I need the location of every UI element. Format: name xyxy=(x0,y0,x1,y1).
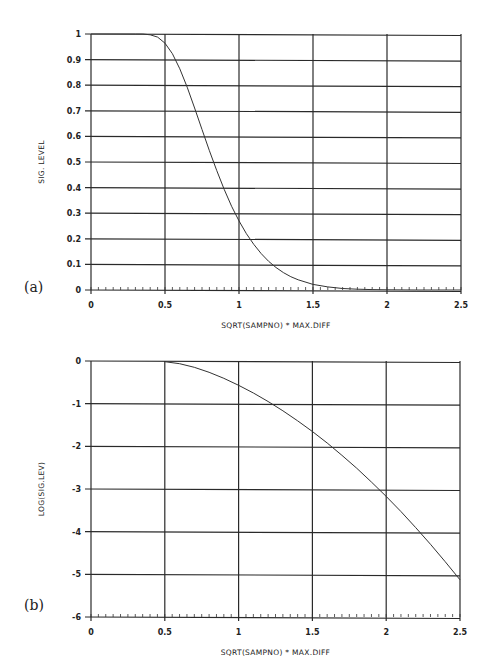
y-gridline xyxy=(85,239,461,241)
figure: 00.10.20.30.40.50.60.70.80.9100.511.522.… xyxy=(0,0,490,670)
y-tick-label: -4 xyxy=(72,528,81,537)
y-gridline xyxy=(85,574,460,576)
y-tick-label: -1 xyxy=(72,400,81,409)
x-tick-label: 0 xyxy=(88,628,94,637)
y-tick-label: 0.2 xyxy=(67,235,81,244)
y-gridline xyxy=(85,213,461,215)
y-tick-label: 0.5 xyxy=(67,158,82,167)
y-gridline xyxy=(85,617,460,619)
y-tick-label: -5 xyxy=(72,570,81,579)
y-axis-label: LOG(SIG.LEV) xyxy=(37,462,46,516)
y-tick-label: 0.9 xyxy=(67,56,82,65)
y-tick-label: 0.7 xyxy=(67,107,81,116)
y-tick-label: 1 xyxy=(75,30,81,39)
chart-a: 00.10.20.30.40.50.60.70.80.9100.511.522.… xyxy=(24,30,469,330)
y-gridline xyxy=(85,489,460,491)
y-gridline xyxy=(85,162,461,164)
x-tick-label: 2 xyxy=(384,301,390,310)
x-tick-label: 1.5 xyxy=(306,301,321,310)
y-axis-label: SIG. LEVEL xyxy=(37,140,46,184)
x-axis-label: SQRT(SAMPNO) * MAX.DIFF xyxy=(221,648,330,657)
y-gridline xyxy=(85,136,461,138)
x-tick-label: 2.5 xyxy=(453,628,468,637)
y-tick-label: -2 xyxy=(72,442,81,451)
y-tick-label: 0.1 xyxy=(67,260,82,269)
x-tick-label: 1 xyxy=(236,628,242,637)
y-tick-label: 0.8 xyxy=(67,81,82,90)
x-tick-label: 2.5 xyxy=(454,301,469,310)
y-gridline xyxy=(85,532,460,534)
x-tick-label: 1 xyxy=(236,301,242,310)
y-tick-label: 0 xyxy=(75,357,81,366)
y-gridline xyxy=(85,446,460,448)
y-tick-label: -6 xyxy=(72,613,81,622)
y-gridline xyxy=(85,111,461,113)
y-gridline xyxy=(85,361,460,363)
x-tick-label: 0 xyxy=(88,301,94,310)
y-tick-label: 0.3 xyxy=(67,209,81,218)
y-gridline xyxy=(85,60,461,62)
y-tick-label: 0.6 xyxy=(67,132,82,141)
x-tick-label: 2 xyxy=(383,628,389,637)
x-tick-label: 0.5 xyxy=(158,628,173,637)
chart-b: -6-5-4-3-2-1000.511.522.5SQRT(SAMPNO) * … xyxy=(24,357,468,657)
x-tick-label: 0.5 xyxy=(158,301,173,310)
panel-label: (a) xyxy=(24,279,43,295)
y-tick-label: -3 xyxy=(72,485,81,494)
y-gridline xyxy=(85,188,461,190)
y-tick-label: 0.4 xyxy=(67,184,82,193)
panel-label: (b) xyxy=(24,597,44,613)
y-tick-label: 0 xyxy=(75,286,81,295)
x-tick-label: 1.5 xyxy=(305,628,320,637)
y-gridline xyxy=(85,85,461,87)
x-axis-label: SQRT(SAMPNO) * MAX.DIFF xyxy=(221,321,330,330)
